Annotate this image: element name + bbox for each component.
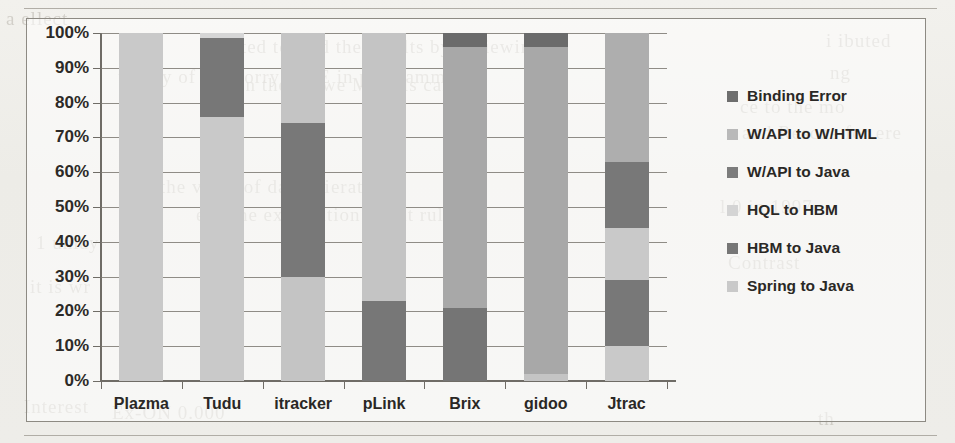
bar-segment[interactable] xyxy=(605,33,649,162)
bar-plazma[interactable] xyxy=(119,33,163,381)
bar-segment[interactable] xyxy=(281,277,325,381)
y-axis-tick xyxy=(93,242,101,243)
x-axis-tick xyxy=(505,381,506,389)
x-axis-tick xyxy=(263,381,264,389)
bar-segment[interactable] xyxy=(524,47,568,374)
bar-segment[interactable] xyxy=(524,374,568,381)
y-axis-tick xyxy=(93,103,101,104)
legend-item[interactable]: Binding Error xyxy=(727,77,927,115)
y-axis-tick xyxy=(93,207,101,208)
bar-segment[interactable] xyxy=(362,301,406,381)
y-axis-tick xyxy=(93,311,101,312)
bar-itracker[interactable] xyxy=(281,33,325,381)
legend-item[interactable]: HQL to HBM xyxy=(727,191,927,229)
bar-segment[interactable] xyxy=(200,38,244,116)
y-axis-tick-label: 30% xyxy=(55,267,89,287)
bar-segment[interactable] xyxy=(605,162,649,228)
x-axis-label-itracker: itracker xyxy=(274,395,332,413)
y-axis-tick xyxy=(93,277,101,278)
x-axis-label-jtrac: Jtrac xyxy=(607,395,645,413)
bar-segment[interactable] xyxy=(119,33,163,381)
y-axis-tick-label: 50% xyxy=(55,197,89,217)
bar-segment[interactable] xyxy=(605,228,649,280)
y-axis-tick-label: 20% xyxy=(55,301,89,321)
legend-swatch-icon xyxy=(727,281,738,292)
legend-item[interactable]: HBM to Java xyxy=(727,229,927,267)
legend-label: HBM to Java xyxy=(747,239,840,257)
bar-segment[interactable] xyxy=(443,47,487,308)
legend-label: Spring to Java xyxy=(747,277,854,295)
legend-item[interactable]: Spring to Java xyxy=(727,267,927,305)
bar-segment[interactable] xyxy=(200,33,244,38)
page-top-rule xyxy=(24,8,937,9)
bar-brix[interactable] xyxy=(443,33,487,381)
chart-frame: 0%10%20%30%40%50%60%70%80%90%100% Plazma… xyxy=(26,18,926,422)
bar-segment[interactable] xyxy=(443,33,487,47)
x-axis-label-brix: Brix xyxy=(449,395,480,413)
bar-jtrac[interactable] xyxy=(605,33,649,381)
x-axis-label-plazma: Plazma xyxy=(114,395,169,413)
bar-segment[interactable] xyxy=(605,346,649,381)
y-axis-tick-label: 60% xyxy=(55,162,89,182)
bar-tudu[interactable] xyxy=(200,33,244,381)
legend-swatch-icon xyxy=(727,129,738,140)
y-axis-tick xyxy=(93,346,101,347)
y-axis-tick xyxy=(93,137,101,138)
legend-swatch-icon xyxy=(727,243,738,254)
y-axis-tick-label: 0% xyxy=(64,371,89,391)
y-axis-tick-label: 90% xyxy=(55,58,89,78)
y-axis-tick-label: 10% xyxy=(55,336,89,356)
legend-label: Binding Error xyxy=(747,87,847,105)
bar-segment[interactable] xyxy=(443,308,487,381)
legend-swatch-icon xyxy=(727,205,738,216)
y-axis-tick-label: 70% xyxy=(55,127,89,147)
x-axis-tick xyxy=(667,381,668,389)
legend-label: HQL to HBM xyxy=(747,201,838,219)
bar-gidoo[interactable] xyxy=(524,33,568,381)
y-axis-tick-label: 40% xyxy=(55,232,89,252)
legend-label: W/API to Java xyxy=(747,163,850,181)
bar-segment[interactable] xyxy=(200,117,244,381)
legend-swatch-icon xyxy=(727,167,738,178)
y-axis-tick xyxy=(93,68,101,69)
y-axis-tick xyxy=(93,172,101,173)
bar-plink[interactable] xyxy=(362,33,406,381)
x-axis-label-tudu: Tudu xyxy=(203,395,241,413)
bar-segment[interactable] xyxy=(362,33,406,301)
legend: Binding ErrorW/API to W/HTMLW/API to Jav… xyxy=(727,77,927,305)
x-axis-tick xyxy=(424,381,425,389)
x-axis-tick xyxy=(344,381,345,389)
x-axis-tick xyxy=(101,381,102,389)
y-axis-tick-label: 80% xyxy=(55,93,89,113)
bar-segment[interactable] xyxy=(524,33,568,47)
x-axis-label-gidoo: gidoo xyxy=(524,395,568,413)
bar-segment[interactable] xyxy=(281,123,325,276)
legend-swatch-icon xyxy=(727,91,738,102)
y-axis-tick xyxy=(93,33,101,34)
plot-area: 0%10%20%30%40%50%60%70%80%90%100% Plazma… xyxy=(101,33,667,381)
legend-item[interactable]: W/API to Java xyxy=(727,153,927,191)
y-axis-tick-label: 100% xyxy=(46,23,89,43)
legend-label: W/API to W/HTML xyxy=(747,125,877,143)
legend-item[interactable]: W/API to W/HTML xyxy=(727,115,927,153)
page-bottom-rule xyxy=(24,435,937,436)
bar-segment[interactable] xyxy=(605,280,649,346)
x-axis-label-plink: pLink xyxy=(363,395,406,413)
x-axis-tick xyxy=(586,381,587,389)
bar-segment[interactable] xyxy=(281,33,325,123)
x-axis-tick xyxy=(182,381,183,389)
y-axis-tick xyxy=(93,381,101,382)
